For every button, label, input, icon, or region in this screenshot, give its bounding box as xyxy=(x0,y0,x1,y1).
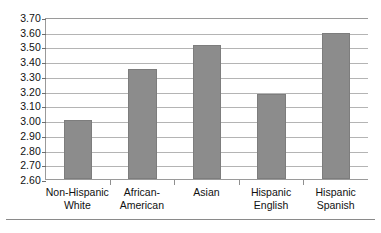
bar-slot xyxy=(304,19,368,179)
y-axis-tick-label: 3.50 xyxy=(20,42,41,52)
x-axis-category-label-line: Asian xyxy=(174,186,239,199)
x-axis-category-label-line: Spanish xyxy=(303,199,368,212)
x-axis-category-label-line: American xyxy=(110,199,175,212)
bar-slot xyxy=(46,19,110,179)
y-axis-tick-label: 3.40 xyxy=(20,57,41,67)
plot-area xyxy=(45,18,368,180)
x-axis-category-label-line: Hispanic xyxy=(303,186,368,199)
y-axis-tick-label: 2.80 xyxy=(20,146,41,156)
bars-layer xyxy=(46,19,368,179)
y-axis-tick-label: 2.70 xyxy=(20,160,41,170)
x-axis-labels: Non-HispanicWhiteAfrican-AmericanAsianHi… xyxy=(45,185,368,219)
y-axis-tick-label: 3.00 xyxy=(20,116,41,126)
y-axis-tick-label: 3.60 xyxy=(20,28,41,38)
y-axis-labels: 3.703.603.503.403.303.203.103.002.902.80… xyxy=(0,18,41,180)
y-axis-tick-label: 3.20 xyxy=(20,87,41,97)
y-axis-tick-label: 3.10 xyxy=(20,101,41,111)
y-axis-tick-label: 3.70 xyxy=(20,13,41,23)
y-axis-tick-label: 2.60 xyxy=(20,175,41,185)
y-axis-tick-label: 2.90 xyxy=(20,131,41,141)
bar-chart-figure: 3.703.603.503.403.303.203.103.002.902.80… xyxy=(0,0,381,233)
x-axis-category-label-line: African- xyxy=(110,186,175,199)
x-axis-category-label-line: English xyxy=(239,199,304,212)
bar-slot xyxy=(239,19,303,179)
x-axis-category-label: HispanicEnglish xyxy=(239,185,304,219)
x-axis-category-label-line: White xyxy=(45,199,110,212)
x-axis-category-label: HispanicSpanish xyxy=(303,185,368,219)
bar-slot xyxy=(175,19,239,179)
x-axis-category-label: Asian xyxy=(174,185,239,219)
y-axis-tick-label: 3.30 xyxy=(20,72,41,82)
x-axis-category-label-line: Non-Hispanic xyxy=(45,186,110,199)
footer-divider xyxy=(6,219,375,220)
bar[interactable] xyxy=(128,69,156,179)
bar[interactable] xyxy=(257,94,285,179)
x-axis-category-label-line: Hispanic xyxy=(239,186,304,199)
bar[interactable] xyxy=(193,45,221,179)
x-axis-category-label: African-American xyxy=(110,185,175,219)
plot-wrapper xyxy=(45,18,368,180)
bar-slot xyxy=(110,19,174,179)
bar[interactable] xyxy=(64,120,92,179)
x-axis-category-label: Non-HispanicWhite xyxy=(45,185,110,219)
bar[interactable] xyxy=(322,33,350,179)
